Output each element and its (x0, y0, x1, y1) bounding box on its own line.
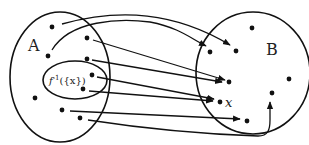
arrow (52, 20, 206, 50)
point-a (50, 25, 55, 30)
point-b (245, 119, 250, 124)
preimage-label: f-1({x}) (48, 74, 86, 86)
points-a (33, 25, 95, 121)
point-b (250, 26, 255, 31)
set-b-label: B (266, 40, 278, 59)
point-b-x (218, 100, 223, 105)
points-b (208, 26, 292, 124)
point-a-preimage (81, 87, 86, 92)
point-a-preimage (90, 73, 95, 78)
arrow (92, 60, 222, 82)
point-b (208, 50, 213, 55)
point-b (234, 49, 239, 54)
point-a (46, 54, 51, 59)
point-b (270, 91, 275, 96)
preimage-sup: -1 (53, 74, 60, 82)
element-x-label: x (225, 95, 233, 110)
arrow (70, 111, 240, 119)
point-a (33, 96, 38, 101)
point-a (60, 108, 65, 113)
arrow (88, 102, 270, 136)
set-a-label: A (27, 36, 40, 55)
point-a (85, 36, 90, 41)
function-diagram: A B f-1({x}) x (0, 0, 309, 145)
point-b (227, 80, 232, 85)
preimage-arg: ({x}) (60, 75, 86, 86)
point-a (78, 116, 83, 121)
point-a (85, 57, 90, 62)
point-b (287, 77, 292, 82)
